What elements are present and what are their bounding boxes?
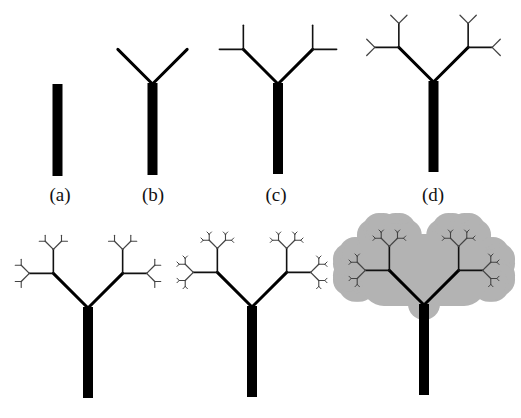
branch-level-3 <box>367 39 375 47</box>
branch-level-3 <box>147 265 155 273</box>
branch-level-1 <box>434 47 469 82</box>
branch-level-5 <box>231 240 233 242</box>
branch-level-3 <box>279 240 287 248</box>
branch-level-3 <box>311 272 319 280</box>
branch-level-3 <box>217 240 225 248</box>
branch-level-1 <box>217 272 252 307</box>
branch-level-1 <box>88 273 123 308</box>
branch-level-3 <box>21 273 29 281</box>
tree-layer <box>15 15 500 398</box>
branch-level-3 <box>399 15 407 23</box>
branch-level-3 <box>492 47 500 55</box>
branch-level-1 <box>252 272 287 307</box>
branch-level-3 <box>21 265 29 273</box>
branch-level-5 <box>319 256 321 258</box>
branch-level-1 <box>118 49 153 84</box>
branch-level-5 <box>201 238 203 240</box>
branch-level-3 <box>123 241 131 249</box>
branch-level-5 <box>317 286 319 288</box>
branch-level-3 <box>147 273 155 281</box>
branch-level-5 <box>185 256 187 258</box>
branch-level-5 <box>325 264 327 266</box>
trunk <box>419 304 429 395</box>
tree-c <box>219 25 336 174</box>
trunk <box>429 81 439 172</box>
panel-label-b: (b) <box>142 184 164 206</box>
branch-level-3 <box>468 15 476 23</box>
branch-level-1 <box>153 49 188 84</box>
branch-level-3 <box>115 241 123 249</box>
branch-level-3 <box>185 264 193 272</box>
branch-level-5 <box>325 280 327 282</box>
branch-level-3 <box>45 241 53 249</box>
branch-level-1 <box>399 47 434 82</box>
branch-level-5 <box>270 238 272 240</box>
panel-label-d: (d) <box>422 184 444 206</box>
branch-level-3 <box>460 15 468 23</box>
fractal-tree-figure <box>0 0 521 418</box>
trunk <box>273 83 283 174</box>
branch-level-1 <box>53 273 88 308</box>
branch-level-5 <box>279 232 281 234</box>
branch-level-5 <box>183 286 185 288</box>
panel-label-c: (c) <box>265 184 286 206</box>
trunk <box>247 306 257 397</box>
branch-level-5 <box>209 232 211 234</box>
branch-level-3 <box>185 272 193 280</box>
tree-f <box>177 232 327 397</box>
trunk <box>148 83 158 175</box>
branch-level-3 <box>209 240 217 248</box>
tree-b <box>118 49 187 175</box>
branch-level-3 <box>391 15 399 23</box>
branch-level-5 <box>177 262 179 264</box>
branch-level-5 <box>177 278 179 280</box>
panel-label-a: (a) <box>49 184 70 206</box>
branch-level-1 <box>243 49 278 84</box>
trunk <box>53 84 63 176</box>
branch-level-5 <box>295 232 297 234</box>
branch-level-3 <box>311 264 319 272</box>
tree-a <box>53 84 63 176</box>
tree-d <box>367 15 501 172</box>
branch-level-5 <box>301 240 303 242</box>
branch-level-1 <box>278 49 313 84</box>
branch-level-3 <box>287 240 295 248</box>
branch-level-3 <box>53 241 61 249</box>
trunk <box>83 307 93 398</box>
tree-e <box>15 235 161 398</box>
branch-level-3 <box>492 39 500 47</box>
branch-level-3 <box>367 47 375 55</box>
branch-level-5 <box>225 232 227 234</box>
